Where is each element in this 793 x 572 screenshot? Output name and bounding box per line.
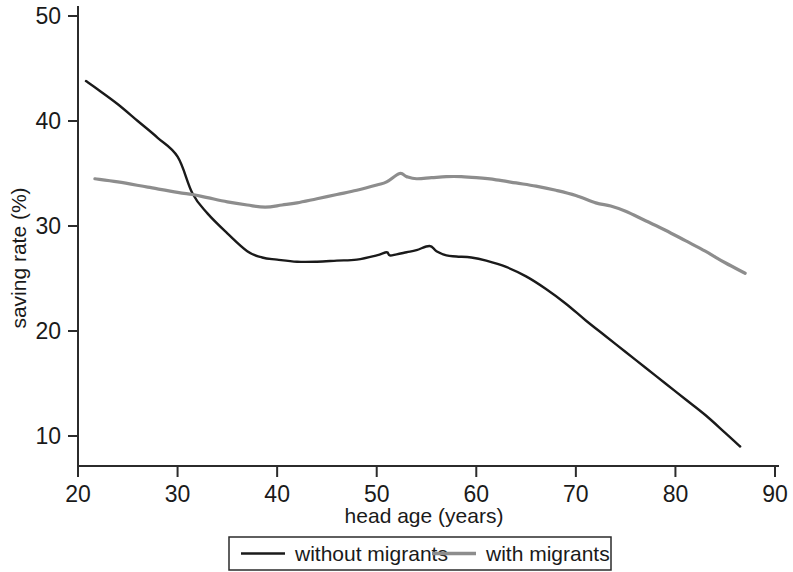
y-tick-label: 10 [35, 423, 61, 449]
x-axis-title: head age (years) [345, 504, 504, 527]
x-tick-label: 30 [165, 481, 191, 507]
legend-label: without migrants [294, 542, 448, 565]
y-tick-label: 50 [35, 3, 61, 29]
x-tick-label: 90 [762, 481, 788, 507]
legend-label: with migrants [485, 542, 610, 565]
x-tick-label: 20 [65, 481, 91, 507]
y-axis-title: saving rate (%) [7, 187, 30, 328]
x-tick-label: 40 [264, 481, 290, 507]
data-series-group [86, 81, 745, 446]
y-axis-tick-labels: 1020304050 [35, 3, 61, 449]
series-line-without-migrants [86, 81, 740, 446]
chart-canvas: 1020304050 2030405060708090 saving rate … [0, 0, 793, 572]
series-line-with-migrants [95, 173, 745, 273]
legend-items: without migrantswith migrants [241, 542, 610, 565]
chart-figure: 1020304050 2030405060708090 saving rate … [0, 0, 793, 572]
y-tick-label: 20 [35, 318, 61, 344]
x-tick-label: 70 [563, 481, 589, 507]
y-tick-label: 30 [35, 213, 61, 239]
x-tick-label: 80 [663, 481, 689, 507]
axis-tick-marks [68, 16, 775, 477]
chart-legend: without migrantswith migrants [229, 537, 611, 570]
y-tick-label: 40 [35, 108, 61, 134]
